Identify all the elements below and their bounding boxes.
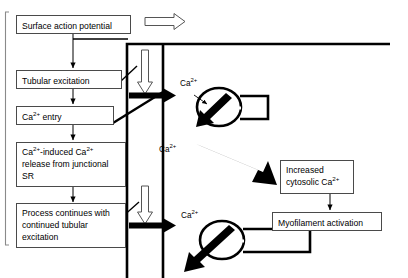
ca-label-middle-text: Ca2+ bbox=[159, 145, 176, 154]
box-process-continues: Process continues with continued tubular… bbox=[16, 203, 126, 248]
ca-label-lower: Ca2+ bbox=[181, 211, 198, 220]
box-label-ca-induced-ca-release: Ca2+-induced Ca2+ release from junctiona… bbox=[22, 147, 108, 181]
ca-label-upper-text: Ca2+ bbox=[180, 79, 197, 88]
box-surface-action-potential: Surface action potential bbox=[16, 15, 131, 34]
box-label-process-continues: Process continues with continued tubular… bbox=[22, 208, 110, 242]
ca-influx-arrow-upper bbox=[129, 88, 176, 104]
box-label-ca-entry: Ca2+ entry bbox=[22, 112, 62, 122]
box-tubular-excitation: Tubular excitation bbox=[16, 70, 122, 89]
cell-outer-boundary bbox=[6, 12, 10, 245]
box-myofilament-activation: Myofilament activation bbox=[272, 212, 382, 231]
hollow-right-arrow bbox=[145, 14, 185, 30]
box-label-increased-cytosolic-ca: Increased cytosolic Ca2+ bbox=[286, 165, 339, 187]
excitation-link-lines bbox=[73, 39, 139, 218]
ca-label-middle: Ca2+ bbox=[159, 145, 176, 154]
box-label-tubular-excitation: Tubular excitation bbox=[22, 76, 90, 86]
hollow-down-arrow-lower bbox=[138, 186, 153, 224]
ca-label-lower-text: Ca2+ bbox=[181, 211, 198, 220]
box-label-surface-action-potential: Surface action potential bbox=[22, 21, 112, 31]
box-ca-induced-ca-release: Ca2+-induced Ca2+ release from junctiona… bbox=[16, 142, 126, 187]
cytosolic-ca-arrow bbox=[196, 144, 277, 185]
box-ca-entry: Ca2+ entry bbox=[16, 106, 114, 125]
box-label-myofilament-activation: Myofilament activation bbox=[278, 218, 363, 228]
ca-influx-arrow-lower bbox=[129, 218, 176, 234]
ca-label-upper: Ca2+ bbox=[180, 79, 197, 88]
hollow-down-arrow-upper bbox=[138, 50, 153, 94]
diagram-canvas: Surface action potential Tubular excitat… bbox=[0, 0, 408, 278]
box-increased-cytosolic-ca: Increased cytosolic Ca2+ bbox=[280, 160, 354, 194]
